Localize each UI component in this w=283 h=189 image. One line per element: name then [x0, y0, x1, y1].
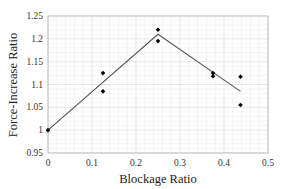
y-tick-label: 1.2	[31, 34, 43, 44]
x-tick-label: 0.1	[86, 158, 98, 168]
y-tick-label: 1	[38, 125, 43, 135]
data-point-marker	[101, 89, 106, 94]
x-axis-title: Blockage Ratio	[119, 172, 196, 186]
x-tick-label: 0.3	[174, 158, 186, 168]
x-tick-label: 0.4	[218, 158, 230, 168]
data-point-marker	[211, 74, 216, 79]
x-tick-label: 0.5	[262, 158, 274, 168]
data-point-marker	[156, 39, 161, 44]
x-axis-tick-labels: 00.10.20.30.40.5	[46, 158, 275, 168]
major-gridlines	[48, 16, 268, 153]
y-tick-label: 1.1	[31, 80, 43, 90]
data-point-marker	[101, 71, 106, 76]
fit-line	[48, 34, 241, 130]
y-tick-label: 0.95	[26, 148, 43, 158]
y-tick-label: 1.25	[26, 11, 43, 21]
chart: 0.9511.051.11.151.21.25 00.10.20.30.40.5…	[0, 0, 283, 189]
data-point-marker	[238, 103, 243, 108]
y-tick-label: 1.05	[26, 102, 43, 112]
data-point-marker	[156, 27, 161, 32]
x-tick-label: 0.2	[130, 158, 142, 168]
y-axis-title: Force-Increase Ratio	[6, 33, 20, 137]
y-axis-tick-labels: 0.9511.051.11.151.21.25	[26, 11, 43, 158]
x-tick-label: 0	[46, 158, 51, 168]
y-tick-label: 1.15	[26, 57, 43, 67]
